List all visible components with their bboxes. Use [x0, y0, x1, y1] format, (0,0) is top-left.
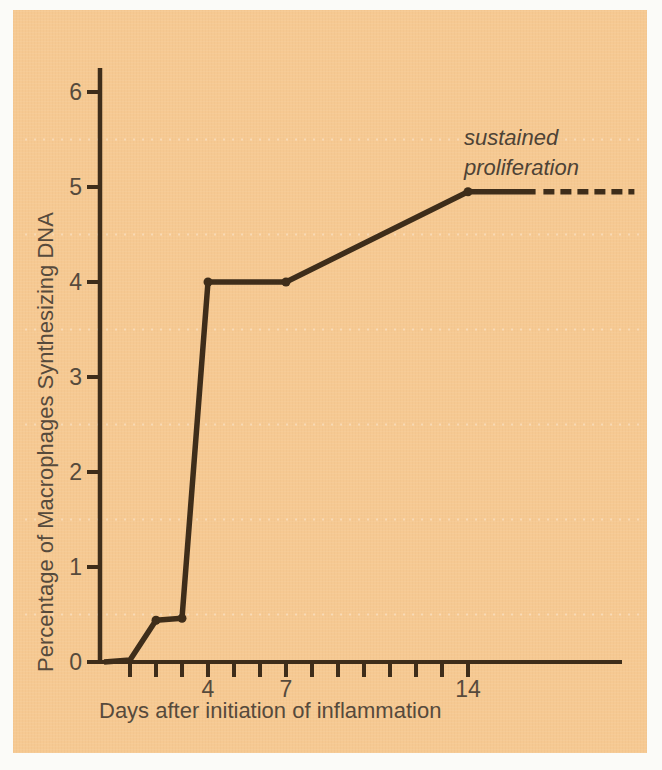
x-axis-title: Days after initiation of inflammation — [99, 697, 441, 726]
y-tick-label: 4 — [69, 269, 82, 295]
annotation-line-1: sustained — [464, 123, 579, 153]
y-tick-label: 6 — [69, 79, 82, 105]
data-point-marker — [282, 278, 291, 287]
data-point-marker — [152, 616, 161, 625]
x-tick-label: 14 — [455, 676, 481, 702]
y-tick-label: 2 — [69, 459, 82, 485]
y-tick-label: 1 — [69, 554, 82, 580]
y-axis-title: Percentage of Macrophages Synthesizing D… — [32, 212, 61, 672]
data-point-marker — [178, 614, 187, 623]
data-line-solid — [104, 192, 536, 662]
y-tick-label: 0 — [69, 649, 82, 675]
data-point-marker — [464, 187, 473, 196]
figure-page: 01234564714 Percentage of Macrophages Sy… — [0, 0, 662, 770]
data-point-marker — [204, 278, 213, 287]
y-tick-label: 5 — [69, 174, 82, 200]
annotation-line-2: proliferation — [464, 153, 579, 183]
annotation-sustained-proliferation: sustained proliferation — [464, 123, 579, 184]
y-tick-label: 3 — [69, 364, 82, 390]
line-chart-canvas: 01234564714 — [0, 0, 662, 770]
